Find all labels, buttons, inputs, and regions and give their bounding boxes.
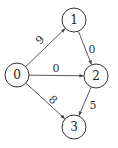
edge-weight-label: 9: [33, 33, 47, 47]
edge-1-2: 0: [78, 31, 95, 64]
node-label: 0: [13, 68, 21, 82]
node-label: 1: [70, 13, 78, 27]
edge-0-2: 0: [29, 62, 84, 76]
node-2: 2: [84, 64, 108, 88]
node-label: 2: [92, 69, 100, 83]
graph-diagram: 90805 0123: [0, 0, 118, 148]
node-3: 3: [62, 115, 86, 139]
edge-weight-label: 5: [90, 99, 97, 112]
edge-weight-label: 8: [46, 93, 60, 107]
node-label: 3: [70, 120, 78, 134]
edge-weight-label: 0: [53, 62, 60, 75]
node-1: 1: [62, 8, 86, 32]
edge-arrow: [26, 83, 65, 118]
edge-weight-label: 0: [89, 43, 96, 56]
edge-arrow: [29, 75, 84, 76]
edge-0-3: 8: [26, 83, 65, 118]
node-0: 0: [5, 63, 29, 87]
edge-2-3: 5: [79, 87, 97, 116]
